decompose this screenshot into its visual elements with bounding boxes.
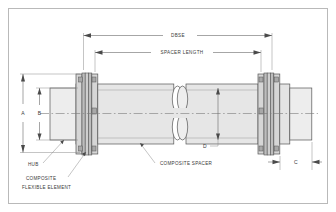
right-composite-flexible-element (258, 73, 280, 155)
right-hub-barrel (280, 84, 290, 144)
composite-flexible-element-label-line2: FLEXIBLE ELEMENT (22, 185, 71, 190)
right-center-bolt (259, 108, 264, 114)
composite-spacer-tube (98, 84, 258, 144)
break-gap-mask (172, 108, 188, 118)
a-label: A (21, 110, 25, 116)
right-hub-assembly (280, 84, 312, 144)
hub-label: HUB (28, 162, 39, 167)
spacer-segment-left (98, 84, 174, 144)
c-label: C (294, 159, 298, 165)
engineering-drawing-canvas: DBSE SPACER LENGTH A (0, 0, 336, 212)
left-flex-disc-2 (85, 73, 88, 155)
d-label: D (203, 143, 207, 149)
b-label: B (38, 110, 42, 116)
left-center-bolt (92, 108, 97, 114)
coupling-assembly-svg: DBSE SPACER LENGTH A (0, 0, 336, 212)
right-shaft (290, 88, 312, 140)
left-flex-disc-3 (88, 73, 91, 155)
spacer-segment-right (186, 84, 258, 144)
left-bolt-head-bottom-outer (79, 146, 83, 151)
composite-flexible-element-label-line1: COMPOSITE (26, 176, 56, 181)
break-symbol (172, 86, 188, 140)
right-hub-flange (274, 74, 280, 154)
right-flex-disc-1 (264, 73, 267, 155)
right-bolt-head-bottom-outer (275, 146, 279, 151)
spacer-length-label: SPACER LENGTH (160, 50, 203, 55)
left-hub-flange (76, 74, 82, 154)
composite-spacer-label: COMPOSITE SPACER (160, 161, 213, 166)
right-bolt-head-top-inner (259, 77, 263, 82)
left-bolt-head-bottom-inner (92, 146, 96, 151)
right-bolt-head-top-outer (275, 77, 279, 82)
right-flex-disc-3 (270, 73, 273, 155)
dbse-label: DBSE (171, 33, 185, 38)
left-flex-disc-1 (82, 73, 85, 155)
left-bolt-head-top-outer (79, 77, 83, 82)
right-bolt-head-bottom-inner (259, 146, 263, 151)
right-flex-disc-2 (267, 73, 270, 155)
left-shaft (50, 88, 78, 140)
left-bolt-head-top-inner (92, 77, 96, 82)
